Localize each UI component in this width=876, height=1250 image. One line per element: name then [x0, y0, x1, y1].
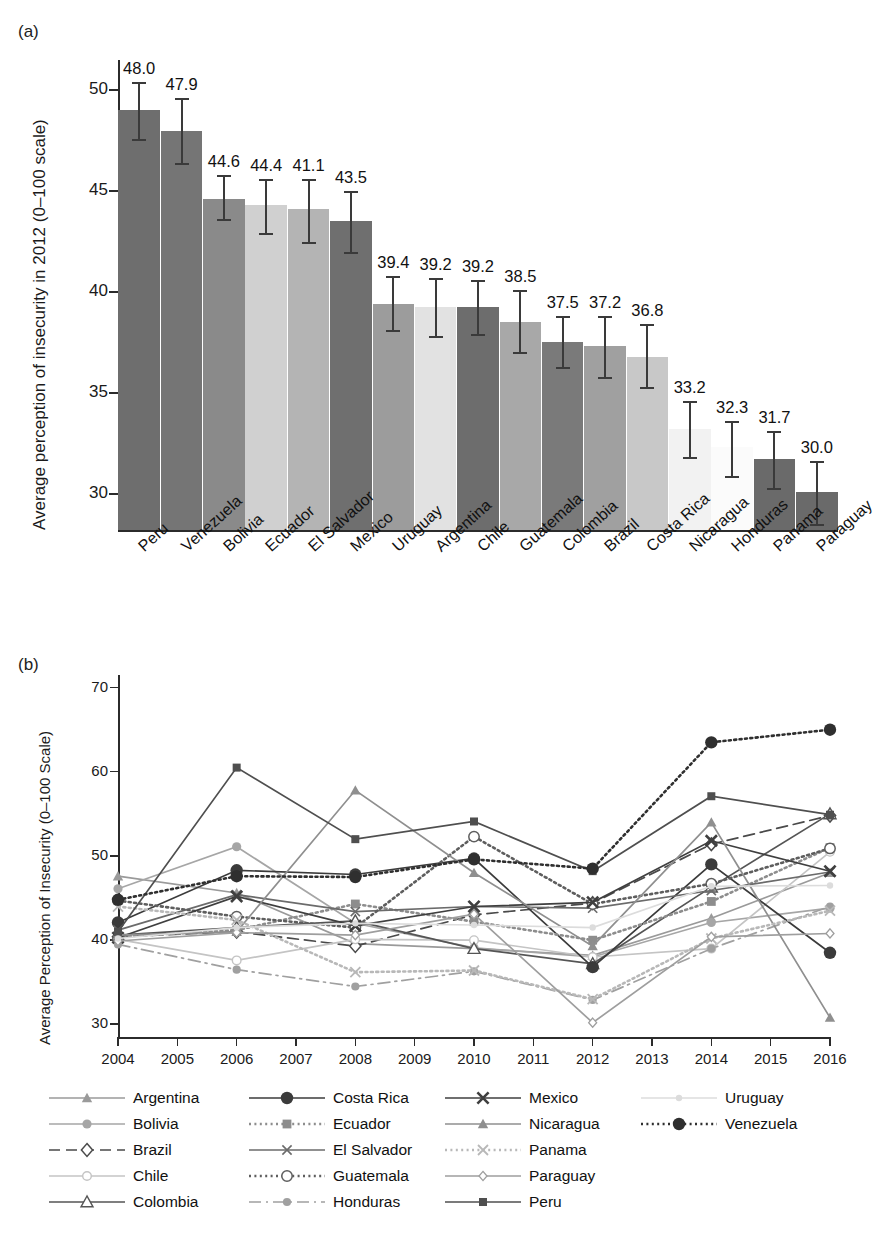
- legend-item-bolivia[interactable]: Bolivia: [48, 1115, 248, 1133]
- error-bar-cap-top: [344, 191, 358, 193]
- legend-sample-brazil: [48, 1142, 126, 1158]
- error-bar-cap-bottom: [683, 457, 697, 459]
- error-bar-cap-bottom: [429, 336, 443, 338]
- error-bar-cap-bottom: [175, 163, 189, 165]
- error-bar-cap-bottom: [344, 252, 358, 254]
- error-bar-cap-bottom: [598, 377, 612, 379]
- bar-value-label: 31.7: [748, 408, 800, 427]
- legend-item-nicaragua[interactable]: Nicaragua: [444, 1115, 640, 1133]
- legend-label: Peru: [529, 1193, 562, 1211]
- error-bar-cap-top: [683, 401, 697, 403]
- legend-item-brazil[interactable]: Brazil: [48, 1141, 248, 1159]
- error-bar-cap-top: [175, 98, 189, 100]
- error-bar: [689, 401, 691, 457]
- bar-uruguay: [373, 304, 415, 530]
- panel-a-y-tick: 45: [56, 180, 108, 200]
- legend-item-panama[interactable]: Panama: [444, 1141, 640, 1159]
- error-bar: [181, 98, 183, 163]
- legend-item-el-salvador[interactable]: El Salvador: [248, 1141, 444, 1159]
- error-bar-cap-bottom: [725, 476, 739, 478]
- error-bar-cap-top: [598, 316, 612, 318]
- legend-label: Uruguay: [725, 1089, 784, 1107]
- error-bar: [435, 278, 437, 336]
- bar-value-label: 43.5: [325, 168, 377, 187]
- error-bar-cap-top: [259, 179, 273, 181]
- error-bar: [265, 179, 267, 233]
- legend-label: Mexico: [529, 1089, 578, 1107]
- legend-item-uruguay[interactable]: Uruguay: [640, 1089, 840, 1107]
- legend-sample-guatemala: [248, 1168, 326, 1184]
- series-venezuela: [112, 724, 836, 906]
- legend-label: Nicaragua: [529, 1115, 600, 1133]
- panel-b-plot-area: [0, 645, 852, 1075]
- legend-label: Guatemala: [333, 1167, 409, 1185]
- error-bar: [350, 191, 352, 252]
- error-bar-cap-top: [640, 324, 654, 326]
- legend-item-chile[interactable]: Chile: [48, 1167, 248, 1185]
- error-bar: [604, 316, 606, 377]
- legend-label: Argentina: [133, 1089, 199, 1107]
- panel-a-label: (a): [18, 22, 39, 42]
- legend-item-peru[interactable]: Peru: [444, 1193, 640, 1211]
- error-bar-cap-top: [513, 290, 527, 292]
- bar-el-salvador: [288, 209, 330, 530]
- legend-item-colombia[interactable]: Colombia: [48, 1193, 248, 1211]
- legend-item-guatemala[interactable]: Guatemala: [248, 1167, 444, 1185]
- legend-label: El Salvador: [333, 1141, 412, 1159]
- error-bar-cap-bottom: [640, 387, 654, 389]
- error-bar: [562, 316, 564, 366]
- bar-value-label: 30.0: [791, 438, 843, 457]
- legend-label: Chile: [133, 1167, 168, 1185]
- error-bar: [731, 421, 733, 475]
- bar-value-label: 36.8: [621, 301, 673, 320]
- legend-item-honduras[interactable]: Honduras: [248, 1193, 444, 1211]
- panel-a-bar-chart: (a) Average perception of insecurity in …: [0, 0, 852, 645]
- legend-item-venezuela[interactable]: Venezuela: [640, 1115, 840, 1133]
- panel-b-line-chart: (b) Average Perception of Insecurity (0–…: [0, 645, 852, 1250]
- legend-item-argentina[interactable]: Argentina: [48, 1089, 248, 1107]
- error-bar-cap-bottom: [556, 367, 570, 369]
- bar-chile: [457, 307, 499, 530]
- legend-item-ecuador[interactable]: Ecuador: [248, 1115, 444, 1133]
- legend-sample-venezuela: [640, 1116, 718, 1132]
- legend-label: Panama: [529, 1141, 587, 1159]
- error-bar: [223, 175, 225, 219]
- bar-bolivia: [203, 199, 245, 530]
- legend-label: Ecuador: [333, 1115, 391, 1133]
- error-bar-cap-top: [429, 278, 443, 280]
- panel-a-y-tick: 35: [56, 382, 108, 402]
- error-bar-cap-bottom: [767, 488, 781, 490]
- error-bar-cap-bottom: [302, 242, 316, 244]
- legend-item-paraguay[interactable]: Paraguay: [444, 1167, 640, 1185]
- error-bar: [477, 280, 479, 334]
- error-bar-cap-top: [132, 82, 146, 84]
- bar-argentina: [415, 307, 457, 530]
- error-bar-cap-bottom: [217, 219, 231, 221]
- error-bar-cap-top: [556, 316, 570, 318]
- legend-sample-costa-rica: [248, 1090, 326, 1106]
- error-bar-cap-top: [767, 431, 781, 433]
- panel-a-y-tick: 30: [56, 483, 108, 503]
- error-bar-cap-top: [810, 461, 824, 463]
- error-bar: [308, 179, 310, 242]
- legend-item-mexico[interactable]: Mexico: [444, 1089, 640, 1107]
- error-bar-cap-bottom: [132, 139, 146, 141]
- error-bar: [519, 290, 521, 353]
- legend-sample-colombia: [48, 1194, 126, 1210]
- error-bar-cap-top: [471, 280, 485, 282]
- legend-label: Honduras: [333, 1193, 400, 1211]
- bar-peru: [118, 110, 160, 530]
- legend-item-costa-rica[interactable]: Costa Rica: [248, 1089, 444, 1107]
- bar-venezuela: [161, 131, 203, 530]
- bar-value-label: 38.5: [494, 267, 546, 286]
- bar-mexico: [330, 221, 372, 530]
- legend-label: Bolivia: [133, 1115, 179, 1133]
- bar-value-label: 47.9: [156, 75, 208, 94]
- error-bar-cap-top: [386, 276, 400, 278]
- error-bar-cap-bottom: [386, 330, 400, 332]
- legend-sample-chile: [48, 1168, 126, 1184]
- legend-sample-uruguay: [640, 1090, 718, 1106]
- legend-label: Costa Rica: [333, 1089, 409, 1107]
- legend-label: Brazil: [133, 1141, 172, 1159]
- error-bar-cap-top: [217, 175, 231, 177]
